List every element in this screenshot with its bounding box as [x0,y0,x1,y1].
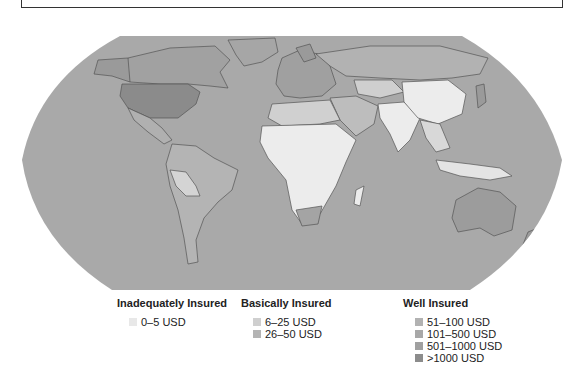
north-africa [268,100,340,126]
legend-label: 26–50 USD [265,328,322,340]
legend-group-inadequate: Inadequately Insured 0–5 USD [117,297,227,328]
swatch-501-1000 [415,342,423,350]
legend-title: Inadequately Insured [117,297,227,309]
legend-label: 6–25 USD [265,316,316,328]
legend-item: 501–1000 USD [415,340,502,352]
legend-label: 51–100 USD [427,316,490,328]
legend-item: 0–5 USD [129,316,227,328]
swatch-6-25 [253,318,261,326]
legend-label: >1000 USD [427,352,484,364]
legend-item: 26–50 USD [253,328,332,340]
world-map [0,0,580,295]
swatch-26-50 [253,330,261,338]
legend-title: Well Insured [403,297,502,309]
legend-group-basic: Basically Insured 6–25 USD 26–50 USD [241,297,332,340]
legend-item: >1000 USD [415,352,502,364]
legend-title: Basically Insured [241,297,332,309]
swatch-101-500 [415,330,423,338]
legend-item: 101–500 USD [415,328,502,340]
legend-group-well: Well Insured 51–100 USD 101–500 USD 501–… [403,297,502,364]
legend-item: 6–25 USD [253,316,332,328]
swatch-51-100 [415,318,423,326]
legend-label: 0–5 USD [141,316,186,328]
legend-label: 501–1000 USD [427,340,502,352]
legend-item: 51–100 USD [415,316,502,328]
legend-label: 101–500 USD [427,328,496,340]
swatch-1000-plus [415,354,423,362]
swatch-0-5 [129,318,137,326]
